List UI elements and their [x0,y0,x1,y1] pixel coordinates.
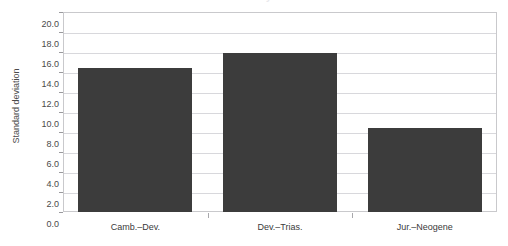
y-axis-tick-label: 0.0 [23,220,59,229]
y-axis-tick-label: 10.0 [23,120,59,129]
y-axis-tick-label: 20.0 [23,20,59,29]
y-axis-tick-label: 14.0 [23,80,59,89]
bar[interactable] [368,128,482,212]
y-axis-tick-mark [59,32,63,33]
y-axis-tick-mark [59,152,63,153]
y-axis-tick-label: 12.0 [23,100,59,109]
bar[interactable] [78,68,192,212]
y-axis-tick-labels: 0.02.04.06.08.010.012.014.016.018.020.0 [18,12,59,212]
y-axis-tick-mark [59,52,63,53]
y-axis-tick-mark [59,132,63,133]
y-axis-tick-mark [59,12,63,13]
y-axis-tick-mark [59,212,63,213]
y-axis-tick-label: 8.0 [23,140,59,149]
chart-title: Annual cycle [0,0,508,2]
y-axis-tick-label: 6.0 [23,160,59,169]
x-axis-category-label: Camb.–Dev. [111,222,160,232]
y-axis-tick-label: 16.0 [23,60,59,69]
x-axis-separator-tick [352,213,353,218]
bars-layer [63,12,497,212]
y-axis-tick-label: 18.0 [23,40,59,49]
x-axis-category-label: Jur.–Neogene [397,222,453,232]
y-axis-tick-mark [59,192,63,193]
bar[interactable] [223,53,337,212]
y-axis-tick-mark [59,112,63,113]
x-axis-category-label: Dev.–Trias. [257,222,302,232]
y-axis-tick-mark [59,92,63,93]
y-axis-tick-mark [59,72,63,73]
y-axis-tick-label: 2.0 [23,200,59,209]
x-axis-separator-tick [208,213,209,218]
bar-chart: Annual cycle Standard deviation 0.02.04.… [0,0,508,246]
y-axis-tick-mark [59,172,63,173]
y-axis-tick-label: 4.0 [23,180,59,189]
